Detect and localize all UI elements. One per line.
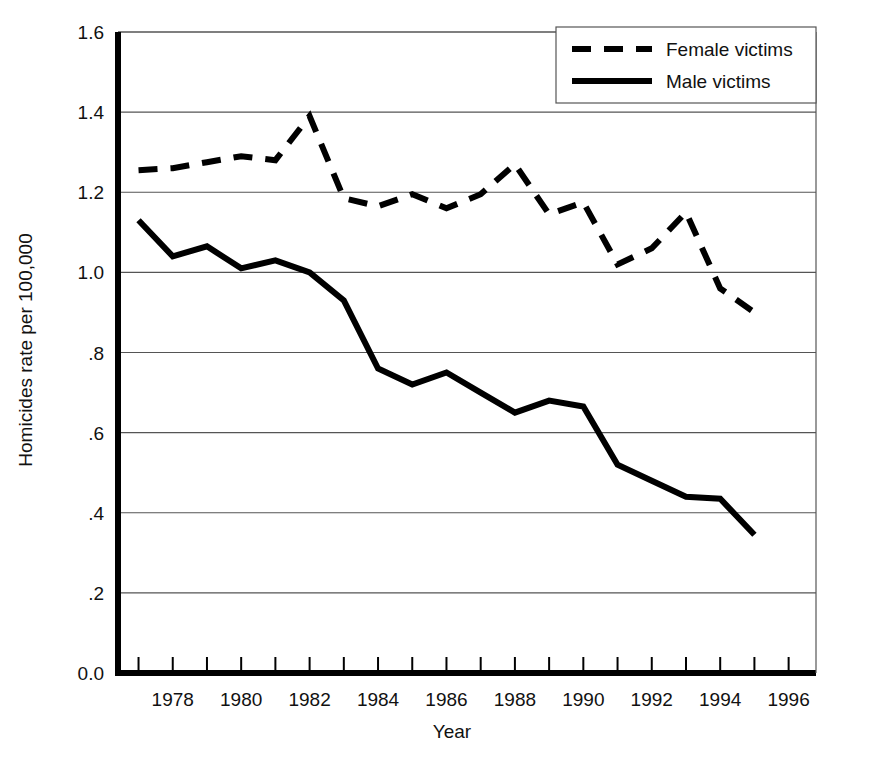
y-axis-tick-label: .2 (88, 583, 104, 604)
y-axis-title: Homicides rate per 100,000 (15, 233, 36, 466)
x-axis-tick-label: 1984 (357, 689, 400, 710)
legend-label: Female victims (666, 39, 793, 60)
plot-frame (115, 32, 816, 676)
gridlines (118, 32, 816, 593)
chart-page: 0.0.2.4.6.81.01.21.41.6 1978198019821984… (0, 0, 877, 769)
x-axis-tick-label: 1982 (288, 689, 330, 710)
y-axis-tick-label: .6 (88, 423, 104, 444)
y-axis-tick-label: 0.0 (78, 663, 104, 684)
x-axis-tick-label: 1980 (220, 689, 262, 710)
x-axis-tick-label: 1992 (631, 689, 673, 710)
y-axis-tick-label: .4 (88, 503, 104, 524)
legend-label: Male victims (666, 71, 771, 92)
y-axis-tick-label: 1.6 (78, 22, 104, 43)
x-axis-tick-label: 1986 (425, 689, 467, 710)
y-axis-tick-labels: 0.0.2.4.6.81.01.21.41.6 (78, 22, 105, 684)
x-axis-tick-label: 1978 (152, 689, 194, 710)
x-axis-tick-label: 1990 (562, 689, 604, 710)
x-axis-tick-label: 1988 (494, 689, 536, 710)
y-axis-tick-label: 1.0 (78, 262, 104, 283)
x-axis-tick-label: 1996 (767, 689, 809, 710)
x-axis-tick-label: 1994 (699, 689, 742, 710)
x-axis-ticks (139, 657, 789, 670)
data-series (139, 116, 755, 535)
homicide-rate-line-chart: 0.0.2.4.6.81.01.21.41.6 1978198019821984… (0, 0, 877, 769)
legend: Female victimsMale victims (556, 27, 816, 103)
series-line (139, 220, 755, 534)
series-line (139, 116, 755, 312)
y-axis-tick-label: .8 (88, 343, 104, 364)
x-axis-tick-labels: 1978198019821984198619881990199219941996 (152, 689, 810, 710)
y-axis-tick-label: 1.4 (78, 102, 105, 123)
y-axis-tick-label: 1.2 (78, 182, 104, 203)
x-axis-title: Year (433, 721, 472, 742)
